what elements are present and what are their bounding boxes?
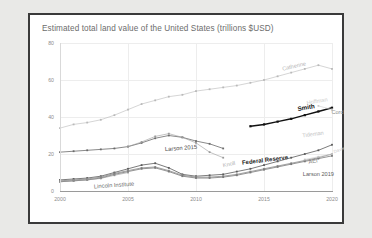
gridline-v [332,43,333,191]
data-point [318,64,320,66]
x-axis [60,191,333,192]
data-point [290,118,292,120]
y-tick-label: 40 [38,114,54,120]
x-tick-label: 2020 [326,196,338,202]
y-tick-label: 80 [38,40,54,46]
data-point [304,153,306,155]
data-point [100,119,102,121]
data-point [304,68,306,70]
data-point [168,96,170,98]
data-point [236,85,238,87]
data-point [304,159,306,161]
data-point [141,168,143,170]
data-point [209,177,211,179]
data-point [100,148,102,150]
data-point [222,87,224,89]
data-point [73,180,75,182]
data-point [127,109,129,111]
data-point [86,149,88,151]
chart-title: Estimated total land value of the United… [42,24,274,33]
data-point [114,114,116,116]
data-point [222,148,224,150]
data-point [195,177,197,179]
data-point [331,155,333,157]
data-point [73,124,75,126]
data-point [182,136,184,138]
data-point [222,173,224,175]
data-point [222,176,224,178]
data-point [154,136,156,138]
plot-area: CatherineCordHoffmanSmithTidemanFederal … [60,43,332,191]
data-point [114,148,116,150]
data-point [154,162,156,164]
data-point [331,153,333,155]
data-point [318,149,320,151]
data-point [277,166,279,168]
data-point [195,90,197,92]
y-tick-label: 20 [38,151,54,157]
data-point [100,178,102,180]
data-point [250,172,252,174]
data-point [290,157,292,159]
data-point [290,163,292,165]
data-point [331,144,333,146]
data-point [331,68,333,70]
data-point [154,99,156,101]
data-point [168,171,170,173]
data-point [182,94,184,96]
data-point [168,167,170,169]
data-point [263,169,265,171]
data-point [86,122,88,124]
data-point [209,151,211,153]
data-point [141,103,143,105]
series-larson-2015 [59,135,224,153]
x-tick-label: 2010 [190,196,202,202]
data-point [154,137,156,139]
y-tick-label: 0 [38,188,54,194]
data-point [86,179,88,181]
data-point [304,161,306,163]
data-point [277,121,279,123]
series-smith [249,107,333,128]
data-point [209,88,211,90]
data-point [195,140,197,142]
series-label-davis: Davis [333,146,345,154]
data-point [290,72,292,74]
data-point [222,157,224,159]
data-point [304,114,306,116]
series-label-larson-2019: Larson 2019 [303,171,334,177]
data-point [127,146,129,148]
data-point [317,110,319,112]
data-point [263,164,265,166]
data-point [263,123,265,125]
data-point [277,75,279,77]
data-point [73,150,75,152]
data-point [250,82,252,84]
x-tick-label: 2005 [122,196,134,202]
data-point [209,174,211,176]
data-point [182,175,184,177]
data-point [168,135,170,137]
data-point [127,172,129,174]
data-point [318,158,320,160]
data-point [249,125,251,127]
data-point [168,133,170,135]
data-point [318,105,320,107]
data-point [318,156,320,158]
data-point [263,79,265,81]
y-tick-label: 60 [38,77,54,83]
data-point [236,171,238,173]
data-point [127,168,129,170]
data-point [236,174,238,176]
data-point [114,174,116,176]
data-point [141,141,143,143]
data-point [141,164,143,166]
data-point [209,143,211,145]
y-axis [60,43,61,191]
series-label-cord: Cord [331,109,343,115]
x-tick-label: 2000 [54,196,66,202]
data-point [154,167,156,169]
chart-card: Estimated total land value of the United… [28,13,344,224]
x-tick-label: 2015 [258,196,270,202]
data-point [250,168,252,170]
